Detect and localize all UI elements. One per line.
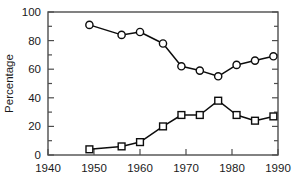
data-point-marker [118,143,125,150]
data-point-marker [215,73,222,80]
x-axis-tick-labels: 194019501960197019801990 [35,162,291,174]
x-tick-label: 1980 [219,162,245,174]
data-point-marker [252,117,259,124]
data-point-marker [86,21,93,28]
plot-frame [48,12,278,155]
axis-ticks [48,12,278,155]
x-tick-label: 1970 [173,162,199,174]
data-point-marker [118,31,125,38]
y-axis-tick-labels: 020406080100 [22,6,41,161]
data-point-marker [86,146,93,153]
series-upper-series [86,21,277,80]
y-tick-label: 0 [35,149,41,161]
data-point-marker [251,57,258,64]
x-tick-label: 1990 [265,162,291,174]
y-tick-label: 60 [28,63,41,75]
data-point-marker [196,112,203,119]
x-tick-label: 1940 [35,162,61,174]
y-tick-label: 80 [28,35,41,47]
line-chart: 194019501960197019801990 020406080100 Pe… [0,0,294,177]
data-series-layer [86,21,277,152]
series-path [89,101,273,150]
data-point-marker [136,28,143,35]
y-tick-label: 20 [28,120,41,132]
data-point-marker [270,113,277,120]
data-point-marker [178,63,185,70]
data-point-marker [160,123,167,130]
data-point-marker [270,53,277,60]
y-axis-title-text: Percentage [3,54,15,113]
data-point-marker [196,67,203,74]
chart-container: 194019501960197019801990 020406080100 Pe… [0,0,294,177]
y-tick-label: 100 [22,6,41,18]
axis-box [48,12,278,155]
x-tick-label: 1950 [81,162,107,174]
x-tick-label: 1960 [127,162,153,174]
data-point-marker [233,112,240,119]
data-point-marker [215,97,222,104]
series-lower-series [86,97,277,152]
y-axis-title: Percentage [3,54,15,113]
data-point-marker [159,40,166,47]
data-point-marker [233,61,240,68]
y-tick-label: 40 [28,92,41,104]
data-point-marker [137,139,144,146]
data-point-marker [178,112,185,119]
